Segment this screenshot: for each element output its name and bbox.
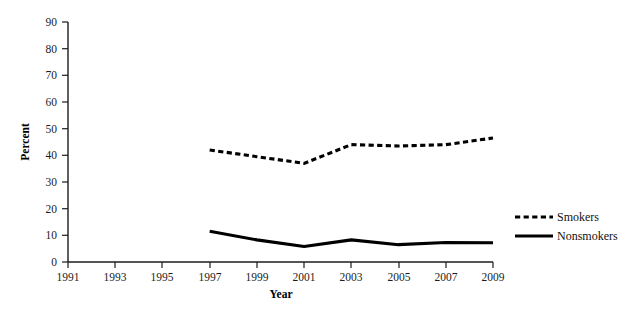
y-tick-label-50: 50 [46, 123, 58, 135]
y-tick-label-10: 10 [46, 229, 58, 241]
y-tick-group: 0 10 20 30 40 50 60 70 80 90 [46, 16, 69, 268]
y-tick-label-0: 0 [51, 256, 57, 268]
y-tick-label-70: 70 [46, 69, 58, 81]
y-tick-label-20: 20 [46, 203, 58, 215]
x-tick-label-1995: 1995 [151, 271, 174, 283]
line-chart: 0 10 20 30 40 50 60 70 80 90 1991 1993 1… [0, 0, 636, 315]
y-tick-label-40: 40 [46, 149, 58, 161]
x-tick-label-2009: 2009 [482, 271, 505, 283]
y-tick-label-60: 60 [46, 96, 58, 108]
x-tick-group: 1991 1993 1995 1997 1999 2001 2003 2005 … [57, 262, 505, 283]
x-axis-title: Year [270, 288, 293, 300]
series-line-nonsmokers [210, 231, 493, 246]
x-tick-label-1991: 1991 [57, 271, 80, 283]
x-tick-label-2005: 2005 [388, 271, 411, 283]
axis-group [68, 22, 493, 262]
chart-canvas: 0 10 20 30 40 50 60 70 80 90 1991 1993 1… [0, 0, 636, 315]
y-tick-label-80: 80 [46, 43, 58, 55]
y-tick-label-90: 90 [46, 16, 58, 28]
series-line-smokers [210, 138, 493, 163]
y-axis-title: Percent [19, 123, 31, 161]
x-tick-label-1999: 1999 [246, 271, 269, 283]
x-tick-label-2001: 2001 [293, 271, 316, 283]
x-tick-label-1993: 1993 [104, 271, 127, 283]
legend: Smokers Nonsmokers [515, 210, 618, 243]
x-tick-label-1997: 1997 [199, 271, 222, 283]
y-tick-label-30: 30 [46, 176, 58, 188]
x-tick-label-2003: 2003 [340, 271, 363, 283]
legend-label-nonsmokers: Nonsmokers [557, 229, 618, 243]
x-tick-label-2007: 2007 [435, 271, 458, 283]
legend-label-smokers: Smokers [557, 210, 599, 224]
